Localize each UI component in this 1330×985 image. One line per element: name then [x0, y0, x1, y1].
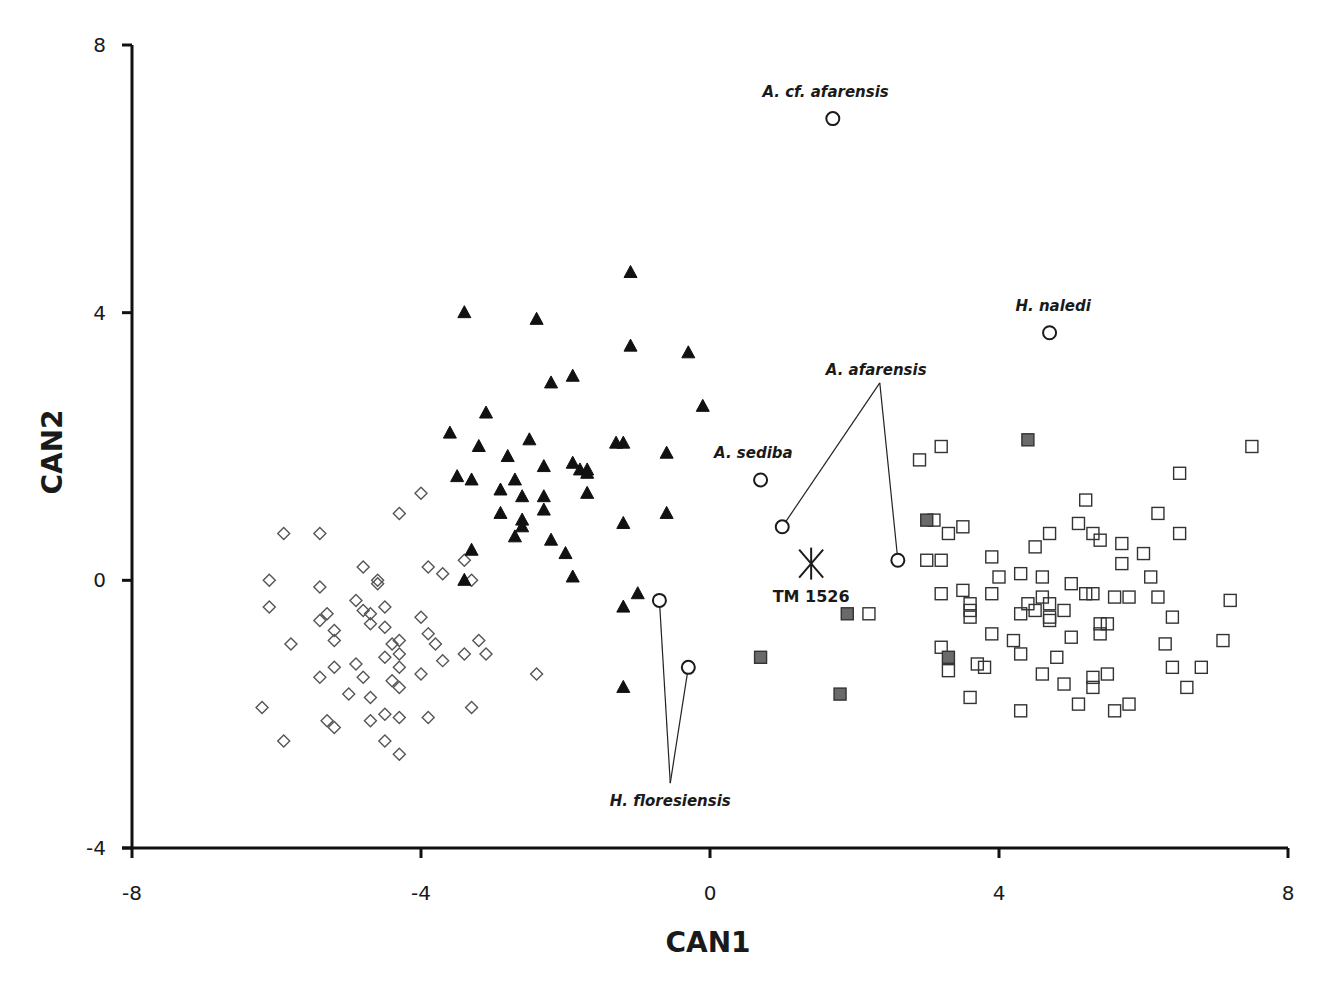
- diamond-marker: [350, 594, 362, 606]
- triangle-marker: [660, 506, 673, 518]
- triangle-marker: [617, 680, 630, 692]
- square-marker: [1109, 705, 1121, 717]
- triangle-marker: [617, 516, 630, 528]
- square-marker: [1015, 705, 1027, 717]
- diamond-marker: [473, 635, 485, 647]
- diamond-marker: [379, 735, 391, 747]
- leader-line: [670, 667, 688, 783]
- diamond-marker: [480, 648, 492, 660]
- square-marker: [1065, 578, 1077, 590]
- leader-line: [782, 383, 880, 527]
- scatter-chart: 840-4 -8-4048 CAN1 CAN2 A. cf. afarensis…: [0, 0, 1330, 985]
- diamond-marker: [350, 658, 362, 670]
- y-ticks: 840-4: [86, 33, 132, 860]
- triangle-marker: [451, 470, 464, 482]
- square-marker: [1058, 604, 1070, 616]
- diamond-marker: [415, 611, 427, 623]
- square-marker: [1224, 594, 1236, 606]
- square-marker: [1138, 548, 1150, 560]
- square-marker: [1015, 608, 1027, 620]
- diamond-marker: [256, 701, 268, 713]
- diamond-marker: [531, 668, 543, 680]
- series-tm-1526: [799, 548, 823, 580]
- triangle-marker: [682, 346, 695, 358]
- square-marker: [1029, 604, 1041, 616]
- square-marker: [957, 521, 969, 533]
- square-marker: [986, 551, 998, 563]
- specimen-circle-marker: [891, 554, 904, 567]
- square-marker: [1217, 635, 1229, 647]
- square-marker: [979, 661, 991, 673]
- square-marker: [1044, 614, 1056, 626]
- square-marker: [1145, 571, 1157, 583]
- square-marker: [1065, 631, 1077, 643]
- gray-square-marker: [1022, 434, 1034, 446]
- diamond-marker: [437, 568, 449, 580]
- triangle-marker: [494, 483, 507, 495]
- square-marker: [1181, 681, 1193, 693]
- diamond-marker: [357, 561, 369, 573]
- annotation-label: A. sediba: [713, 444, 793, 462]
- square-marker: [964, 691, 976, 703]
- square-marker: [1174, 467, 1186, 479]
- specimen-circle-marker: [826, 112, 839, 125]
- x-axis-title: CAN1: [665, 926, 750, 959]
- diamond-marker: [458, 554, 470, 566]
- specimen-circle-marker: [754, 473, 767, 486]
- triangle-marker: [508, 473, 521, 485]
- square-marker: [1246, 441, 1258, 453]
- diamond-marker: [364, 691, 376, 703]
- diamond-marker: [393, 661, 405, 673]
- annotation-label: A. cf. afarensis: [761, 83, 888, 101]
- square-marker: [1036, 668, 1048, 680]
- triangle-marker: [516, 490, 529, 502]
- square-marker: [921, 554, 933, 566]
- y-tick-label: 4: [93, 301, 106, 325]
- square-marker: [1080, 494, 1092, 506]
- annotations: A. cf. afarensisH. nalediA. sedibaA. afa…: [610, 83, 1092, 810]
- square-marker: [1087, 588, 1099, 600]
- leader-line: [659, 600, 670, 783]
- triangle-marker: [480, 406, 493, 418]
- square-marker: [1195, 661, 1207, 673]
- triangle-marker: [617, 600, 630, 612]
- specimen-circle-marker: [776, 520, 789, 533]
- square-marker: [1166, 611, 1178, 623]
- triangle-marker: [559, 547, 572, 559]
- x-tick-label: 0: [704, 881, 717, 905]
- specimen-circle-marker: [682, 661, 695, 674]
- square-marker: [1166, 661, 1178, 673]
- diamond-marker: [314, 581, 326, 593]
- square-marker: [1109, 591, 1121, 603]
- triangle-marker: [530, 312, 543, 324]
- diamond-marker: [263, 601, 275, 613]
- gray-square-marker: [841, 608, 853, 620]
- x-tick-label: 8: [1282, 881, 1295, 905]
- diamond-marker: [422, 561, 434, 573]
- square-marker: [1036, 571, 1048, 583]
- triangle-marker: [660, 446, 673, 458]
- diamond-marker: [357, 671, 369, 683]
- square-marker: [1051, 651, 1063, 663]
- diamond-marker: [422, 628, 434, 640]
- square-marker: [1116, 538, 1128, 550]
- y-tick-label: -4: [86, 836, 106, 860]
- gray-square-marker: [755, 651, 767, 663]
- square-marker: [1152, 507, 1164, 519]
- diamond-marker: [328, 661, 340, 673]
- square-marker: [1094, 534, 1106, 546]
- axes: 840-4 -8-4048 CAN1 CAN2: [36, 33, 1294, 959]
- triangle-marker: [494, 506, 507, 518]
- square-marker: [1044, 527, 1056, 539]
- triangle-marker: [458, 573, 471, 585]
- triangle-marker: [465, 543, 478, 555]
- square-marker: [1152, 591, 1164, 603]
- diamond-marker: [458, 648, 470, 660]
- square-marker: [1072, 698, 1084, 710]
- triangle-marker: [537, 460, 550, 472]
- diamond-marker: [466, 701, 478, 713]
- triangle-marker: [458, 306, 471, 318]
- square-marker: [1015, 568, 1027, 580]
- annotation-label: A. afarensis: [825, 361, 927, 379]
- triangle-marker: [566, 369, 579, 381]
